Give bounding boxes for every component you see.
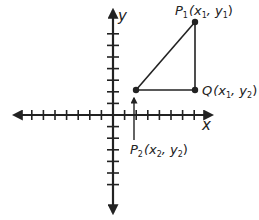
p1-label: P1(x1, y1) — [175, 3, 233, 20]
point-p1 — [192, 19, 198, 25]
hypotenuse — [136, 22, 195, 90]
y-axis — [107, 10, 119, 213]
x-axis-label: x — [201, 116, 211, 134]
y-axis-label: y — [117, 7, 128, 25]
p2-label: P2(x2, y2) — [130, 142, 188, 159]
point-p2 — [133, 87, 139, 93]
point-q — [192, 87, 198, 93]
right-triangle — [133, 19, 198, 93]
q-label: Q(x1, y2) — [202, 83, 257, 100]
coordinate-plane-diagram: y x P1(x1, y1) Q(x1, y2) P2(x2, y2) — [0, 0, 259, 220]
